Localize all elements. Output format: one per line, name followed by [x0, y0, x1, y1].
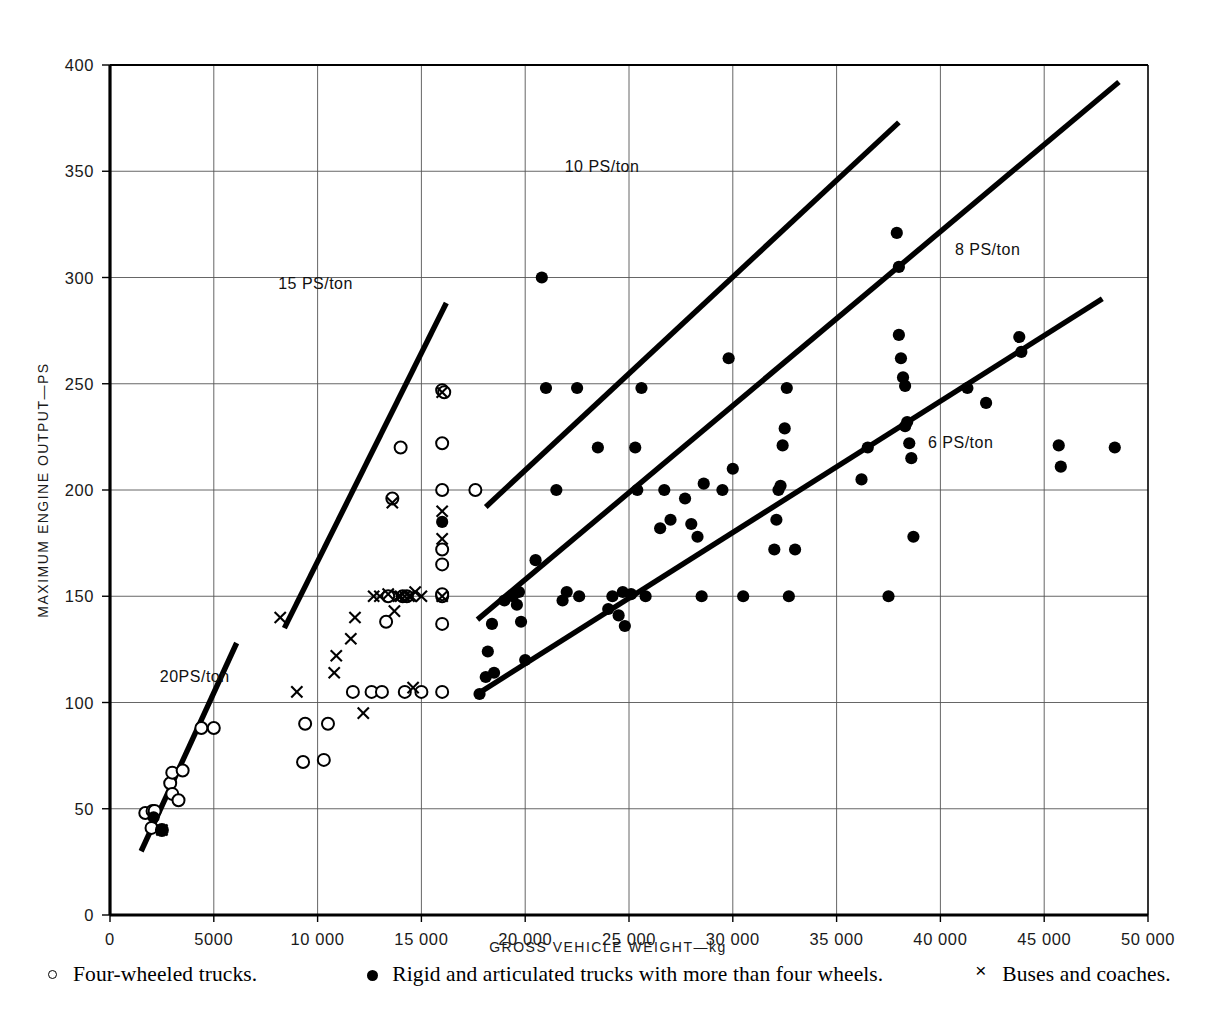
data-point-open-circle: [436, 588, 448, 600]
data-point-open-circle: [436, 437, 448, 449]
data-point-filled-circle: [1053, 439, 1065, 451]
x-tick-label: 35 000: [810, 930, 864, 948]
data-point-cross: [329, 667, 340, 678]
cross-icon: [975, 967, 991, 983]
filled-circle-icon: [365, 967, 381, 983]
data-point-filled-circle: [698, 478, 710, 490]
data-point-filled-circle: [631, 484, 643, 496]
data-point-filled-circle: [783, 590, 795, 602]
data-point-cross: [389, 606, 400, 617]
data-point-filled-circle: [685, 518, 697, 530]
data-point-filled-circle: [907, 531, 919, 543]
data-point-filled-circle: [436, 516, 448, 528]
data-points: [139, 227, 1121, 836]
y-tick-label: 150: [65, 587, 94, 605]
data-point-filled-circle: [635, 382, 647, 394]
data-point-cross: [345, 633, 356, 644]
reference-line-label: 6 PS/ton: [928, 434, 993, 451]
data-point-open-circle: [208, 722, 220, 734]
data-point-filled-circle: [893, 261, 905, 273]
x-tick-label: 45 000: [1017, 930, 1071, 948]
data-point-filled-circle: [602, 603, 614, 615]
data-point-filled-circle: [779, 422, 791, 434]
data-point-filled-circle: [473, 688, 485, 700]
legend-item-buses-coaches: Buses and coaches.: [975, 962, 1170, 987]
data-point-filled-circle: [774, 480, 786, 492]
reference-lines: [141, 82, 1119, 851]
x-axis-title: GROSS VEHICLE WEIGHT—kg: [489, 939, 727, 955]
data-point-filled-circle: [147, 811, 159, 823]
data-point-filled-circle: [895, 352, 907, 364]
x-tick-label: 0: [105, 930, 115, 948]
x-tick-label: 5000: [194, 930, 233, 948]
reference-line-label: 15 PS/ton: [278, 275, 353, 292]
reference-line-labels: 20PS/ton15 PS/ton10 PS/ton8 PS/ton6 PS/t…: [160, 158, 1020, 685]
data-point-filled-circle: [727, 463, 739, 475]
data-point-open-circle: [380, 616, 392, 628]
legend-item-four-wheeled-trucks: Four-wheeled trucks.: [46, 962, 257, 987]
reference-line-label: 20PS/ton: [160, 668, 230, 685]
data-point-cross: [358, 708, 369, 719]
data-point-filled-circle: [716, 484, 728, 496]
data-point-filled-circle: [980, 397, 992, 409]
chart-legend: Four-wheeled trucks. Rigid and articulat…: [0, 962, 1216, 1008]
data-point-filled-circle: [901, 416, 913, 428]
y-axis-tick-labels: 050100150200250300350400: [65, 56, 94, 924]
data-point-filled-circle: [540, 382, 552, 394]
data-point-filled-circle: [550, 484, 562, 496]
data-point-filled-circle: [789, 543, 801, 555]
data-point-open-circle: [297, 756, 309, 768]
data-point-filled-circle: [486, 618, 498, 630]
data-point-filled-circle: [723, 352, 735, 364]
data-point-open-circle: [436, 544, 448, 556]
data-point-filled-circle: [903, 437, 915, 449]
y-tick-label: 200: [65, 481, 94, 499]
data-point-filled-circle: [482, 645, 494, 657]
data-point-cross: [437, 506, 448, 517]
data-point-filled-circle: [511, 599, 523, 611]
data-point-open-circle: [438, 386, 450, 398]
data-point-open-circle: [177, 765, 189, 777]
data-point-open-circle: [395, 442, 407, 454]
x-tick-label: 15 000: [394, 930, 448, 948]
data-point-open-circle: [318, 754, 330, 766]
data-point-filled-circle: [640, 590, 652, 602]
data-point-cross: [291, 686, 302, 697]
data-point-filled-circle: [613, 609, 625, 621]
data-point-filled-circle: [519, 654, 531, 666]
y-tick-label: 0: [84, 906, 94, 924]
data-point-filled-circle: [1109, 441, 1121, 453]
data-point-filled-circle: [488, 667, 500, 679]
data-point-open-circle: [173, 794, 185, 806]
data-point-filled-circle: [882, 590, 894, 602]
y-tick-label: 50: [74, 800, 94, 818]
data-point-open-circle: [322, 718, 334, 730]
engine-output-figure: 0500010 00015 00020 00025 00030 00035 00…: [0, 0, 1216, 1021]
data-point-filled-circle: [777, 439, 789, 451]
data-point-filled-circle: [862, 441, 874, 453]
scatter-chart: 0500010 00015 00020 00025 00030 00035 00…: [0, 0, 1216, 960]
data-point-cross: [349, 612, 360, 623]
data-point-filled-circle: [768, 543, 780, 555]
y-axis-title: MAXIMUM ENGINE OUTPUT—PS: [35, 362, 51, 617]
data-point-filled-circle: [961, 382, 973, 394]
data-point-cross: [331, 650, 342, 661]
data-point-filled-circle: [893, 329, 905, 341]
data-point-filled-circle: [855, 473, 867, 485]
data-point-open-circle: [195, 722, 207, 734]
data-point-filled-circle: [696, 590, 708, 602]
data-point-filled-circle: [529, 554, 541, 566]
data-point-filled-circle: [1013, 331, 1025, 343]
y-tick-label: 350: [65, 162, 94, 180]
x-tick-label: 40 000: [913, 930, 967, 948]
data-point-filled-circle: [1055, 461, 1067, 473]
y-tick-label: 100: [65, 694, 94, 712]
data-point-cross: [275, 612, 286, 623]
data-point-filled-circle: [658, 484, 670, 496]
data-point-filled-circle: [770, 514, 782, 526]
data-point-open-circle: [376, 686, 388, 698]
data-point-filled-circle: [899, 380, 911, 392]
y-tick-label: 400: [65, 56, 94, 74]
data-point-open-circle: [436, 558, 448, 570]
data-point-filled-circle: [515, 616, 527, 628]
